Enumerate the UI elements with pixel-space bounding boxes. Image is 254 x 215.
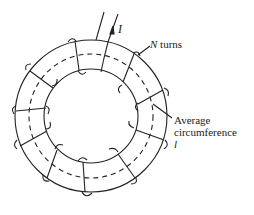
average-line2: circumference (174, 126, 237, 138)
toroid-outer-edge (15, 40, 167, 192)
lead-wire-in (96, 12, 104, 40)
average-variable: l (174, 138, 237, 150)
current-symbol: I (118, 22, 122, 36)
average-line1: Average (174, 114, 237, 126)
avg-leader-line (153, 104, 172, 118)
average-circumference-label: Average circumference l (174, 114, 237, 150)
turns-leader-line (138, 46, 150, 55)
current-label: I (118, 23, 122, 35)
toroid-inner-edge (44, 69, 138, 163)
toroid-diagram (0, 0, 254, 215)
turns-label: N turns (150, 39, 182, 50)
current-arrow-icon (110, 26, 114, 34)
lead-wire-out (101, 14, 118, 72)
average-circumference-line (29, 54, 153, 178)
turns-text: turns (157, 38, 182, 50)
